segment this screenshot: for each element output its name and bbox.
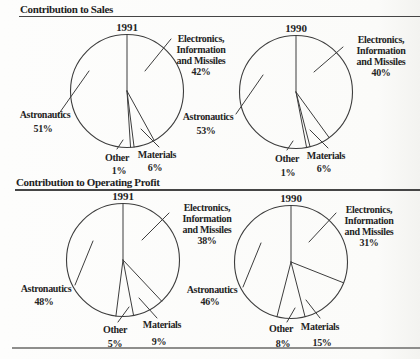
- slice-boundary-line: [116, 260, 123, 316]
- electronics-label-line-2: Information: [357, 45, 407, 56]
- materials-pct-label: 9%: [152, 336, 167, 347]
- materials-label: Materials: [307, 150, 346, 161]
- materials-label: Materials: [143, 319, 182, 330]
- electronics-label-line-1: Electronics,: [346, 204, 393, 215]
- electronics-leader-line: [314, 47, 343, 72]
- other-label: Other: [269, 323, 294, 334]
- astronautics-label: Astronautics: [183, 111, 234, 122]
- electronics-pct-label: 40%: [371, 67, 390, 78]
- electronics-label-line-2: Information: [345, 215, 395, 226]
- pie-charts-canvas: 1991Electronics,Informationand Missiles4…: [0, 0, 420, 359]
- materials-leader-line: [139, 298, 157, 318]
- slice-boundary-line: [277, 262, 291, 317]
- year-label: 1991: [112, 190, 134, 202]
- slice-boundary-line: [127, 91, 134, 147]
- other-leader-line: [118, 307, 129, 322]
- slice-boundary-line: [127, 91, 154, 141]
- slice-boundary-line: [296, 92, 329, 138]
- astronautics-pct-label: 53%: [196, 125, 215, 136]
- other-label: Other: [103, 324, 128, 335]
- electronics-label-line-1: Electronics,: [178, 33, 225, 44]
- scanned-figure-page: Contribution to Sales Contribution to Op…: [0, 0, 420, 359]
- slice-boundary-line: [127, 91, 131, 147]
- electronics-label-line-3: and Missiles: [357, 56, 406, 67]
- materials-label: Materials: [138, 149, 177, 160]
- materials-leader-line: [141, 129, 159, 147]
- other-label: Other: [105, 152, 130, 163]
- horizontal-rule-bottom: [12, 347, 420, 349]
- electronics-pct-label: 42%: [191, 66, 210, 77]
- materials-pct-label: 6%: [317, 163, 332, 174]
- other-label: Other: [275, 153, 300, 164]
- other-pct-label: 1%: [112, 165, 127, 176]
- electronics-label-line-3: and Missiles: [177, 55, 226, 66]
- electronics-label-line-3: and Missiles: [183, 224, 232, 235]
- other-leader-line: [287, 308, 295, 322]
- astronautics-leader-line: [75, 241, 93, 285]
- slice-boundary-line: [291, 262, 344, 283]
- year-label: 1991: [116, 21, 138, 33]
- astronautics-pct-label: 51%: [33, 123, 52, 134]
- materials-pct-label: 6%: [148, 162, 163, 173]
- astronautics-label: Astronautics: [21, 283, 72, 294]
- electronics-label-line-2: Information: [177, 44, 227, 55]
- year-label: 1990: [285, 22, 307, 34]
- other-pct-label: 1%: [281, 167, 296, 178]
- year-label: 1990: [280, 192, 302, 204]
- electronics-leader-line: [142, 213, 169, 240]
- slice-boundary-line: [296, 92, 310, 147]
- electronics-label-line-3: and Missiles: [345, 226, 394, 237]
- electronics-pct-label: 31%: [359, 237, 378, 248]
- electronics-label-line-1: Electronics,: [184, 202, 231, 213]
- electronics-pct-label: 38%: [197, 235, 216, 246]
- slice-boundary-line: [291, 262, 305, 317]
- electronics-leader-line: [309, 213, 336, 242]
- electronics-label-line-2: Information: [183, 213, 233, 224]
- astronautics-leader-line: [243, 243, 261, 287]
- slice-boundary-line: [296, 92, 307, 148]
- astronautics-label: Astronautics: [187, 284, 238, 295]
- pie-chart-sales-1991: 1991Electronics,Informationand Missiles4…: [20, 21, 227, 176]
- pie-chart-profit-1991: 1991Electronics,Informationand Missiles3…: [21, 190, 233, 349]
- astronautics-label: Astronautics: [20, 109, 71, 120]
- electronics-label-line-1: Electronics,: [358, 34, 405, 45]
- astronautics-pct-label: 48%: [34, 296, 53, 307]
- astronautics-pct-label: 46%: [200, 296, 219, 307]
- materials-label: Materials: [301, 321, 340, 332]
- slice-boundary-line: [123, 260, 162, 301]
